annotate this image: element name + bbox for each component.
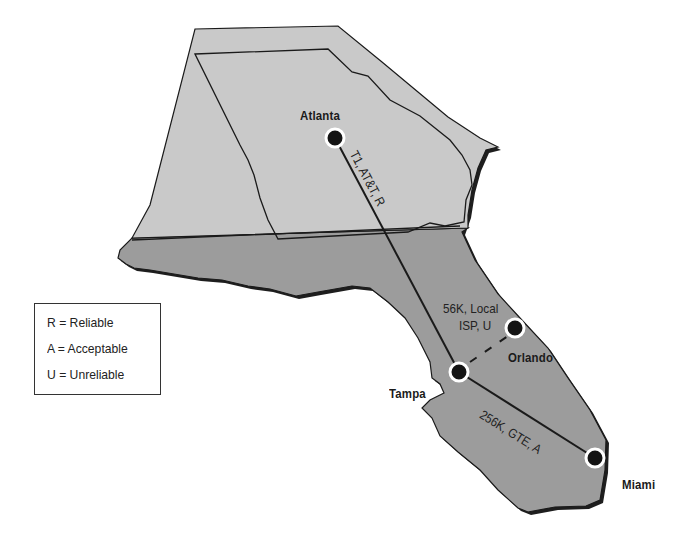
miami-node-icon[interactable] <box>586 449 604 467</box>
city-label-tampa: Tampa <box>389 386 426 401</box>
link-label-tampa-orlando-line2: ISP, U <box>459 318 491 333</box>
florida-region <box>118 228 606 512</box>
reliability-legend: R = Reliable A = Acceptable U = Unreliab… <box>34 303 161 395</box>
atlanta-node-icon[interactable] <box>326 129 344 147</box>
legend-item-reliable: R = Reliable <box>47 314 149 340</box>
georgia-region <box>132 26 498 238</box>
link-label-tampa-orlando-line1: 56K, Local <box>443 301 498 316</box>
city-label-miami: Miami <box>622 477 655 492</box>
legend-item-acceptable: A = Acceptable <box>47 340 149 366</box>
tampa-node-icon[interactable] <box>450 363 468 381</box>
orlando-node-icon[interactable] <box>506 319 524 337</box>
network-map <box>0 0 699 548</box>
city-label-atlanta: Atlanta <box>300 108 340 123</box>
city-label-orlando: Orlando <box>508 350 553 365</box>
legend-item-unreliable: U = Unreliable <box>47 366 149 392</box>
